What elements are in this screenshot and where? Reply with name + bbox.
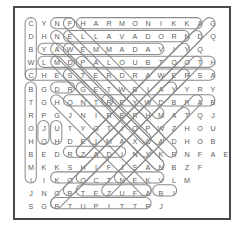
grid-letter[interactable]: T: [102, 83, 116, 96]
grid-letter[interactable]: E: [63, 30, 77, 43]
grid-letter[interactable]: R: [128, 69, 142, 82]
grid-letter[interactable]: E: [37, 148, 51, 161]
grid-letter[interactable]: I: [89, 135, 103, 148]
grid-letter[interactable]: L: [102, 56, 116, 69]
grid-letter[interactable]: Z: [102, 187, 116, 200]
grid-letter[interactable]: N: [141, 17, 155, 30]
grid-letter[interactable]: A: [89, 56, 103, 69]
grid-letter[interactable]: T: [76, 187, 90, 200]
grid-letter[interactable]: A: [193, 96, 207, 109]
grid-letter[interactable]: C: [24, 69, 38, 82]
grid-letter[interactable]: W: [24, 56, 38, 69]
grid-letter[interactable]: E: [167, 69, 181, 82]
grid-letter[interactable]: J: [154, 200, 168, 213]
grid-letter[interactable]: T: [76, 69, 90, 82]
grid-letter[interactable]: Q: [63, 96, 77, 109]
grid-letter[interactable]: M: [50, 56, 64, 69]
grid-letter[interactable]: G: [37, 96, 51, 109]
grid-letter[interactable]: Y: [167, 83, 181, 96]
grid-letter[interactable]: A: [154, 135, 168, 148]
grid-letter[interactable]: B: [167, 161, 181, 174]
grid-letter[interactable]: R: [102, 69, 116, 82]
grid-letter[interactable]: S: [63, 161, 77, 174]
grid-letter[interactable]: S: [193, 69, 207, 82]
grid-letter[interactable]: V: [115, 30, 129, 43]
grid-letter[interactable]: M: [89, 43, 103, 56]
grid-letter[interactable]: O: [128, 122, 142, 135]
grid-letter[interactable]: G: [89, 122, 103, 135]
grid-letter[interactable]: Y: [128, 96, 142, 109]
grid-letter[interactable]: I: [167, 43, 181, 56]
grid-letter[interactable]: O: [193, 122, 207, 135]
grid-letter[interactable]: A: [50, 43, 64, 56]
grid-letter[interactable]: N: [50, 30, 64, 43]
grid-letter[interactable]: B: [24, 83, 38, 96]
grid-letter[interactable]: H: [76, 161, 90, 174]
grid-letter[interactable]: T: [24, 96, 38, 109]
grid-letter[interactable]: S: [128, 161, 142, 174]
grid-letter[interactable]: I: [141, 83, 155, 96]
grid-letter[interactable]: J: [37, 122, 51, 135]
grid-letter[interactable]: P: [141, 122, 155, 135]
grid-letter[interactable]: A: [193, 17, 207, 30]
grid-letter[interactable]: O: [167, 56, 181, 69]
grid-letter[interactable]: H: [141, 109, 155, 122]
grid-letter[interactable]: A: [89, 17, 103, 30]
grid-letter[interactable]: M: [102, 43, 116, 56]
grid-letter[interactable]: C: [24, 17, 38, 30]
grid-letter[interactable]: W: [154, 122, 168, 135]
grid-letter[interactable]: E: [115, 96, 129, 109]
grid-letter[interactable]: U: [206, 122, 220, 135]
grid-letter[interactable]: A: [206, 69, 220, 82]
grid-letter[interactable]: J: [206, 109, 220, 122]
grid-letter[interactable]: Z: [180, 161, 194, 174]
grid-letter[interactable]: P: [76, 56, 90, 69]
grid-letter[interactable]: T: [102, 122, 116, 135]
grid-letter[interactable]: K: [50, 174, 64, 187]
grid-letter[interactable]: F: [193, 161, 207, 174]
grid-letter[interactable]: A: [141, 161, 155, 174]
grid-letter[interactable]: G: [37, 83, 51, 96]
grid-letter[interactable]: W: [63, 43, 77, 56]
grid-letter[interactable]: B: [154, 187, 168, 200]
grid-letter[interactable]: R: [102, 17, 116, 30]
grid-letter[interactable]: H: [180, 122, 194, 135]
grid-letter[interactable]: N: [180, 30, 194, 43]
grid-letter[interactable]: R: [193, 83, 207, 96]
grid-letter[interactable]: A: [141, 187, 155, 200]
grid-letter[interactable]: O: [76, 174, 90, 187]
grid-letter[interactable]: K: [37, 161, 51, 174]
grid-letter[interactable]: B: [115, 109, 129, 122]
grid-letter[interactable]: O: [180, 56, 194, 69]
grid-letter[interactable]: H: [37, 69, 51, 82]
grid-letter[interactable]: N: [115, 174, 129, 187]
grid-letter[interactable]: G: [206, 17, 220, 30]
grid-letter[interactable]: A: [115, 43, 129, 56]
grid-letter[interactable]: T: [154, 56, 168, 69]
grid-letter[interactable]: A: [154, 83, 168, 96]
grid-letter[interactable]: O: [193, 135, 207, 148]
grid-letter[interactable]: N: [50, 17, 64, 30]
grid-letter[interactable]: Y: [37, 17, 51, 30]
grid-letter[interactable]: H: [50, 135, 64, 148]
grid-letter[interactable]: E: [76, 43, 90, 56]
grid-letter[interactable]: I: [89, 161, 103, 174]
grid-letter[interactable]: B: [206, 96, 220, 109]
grid-letter[interactable]: E: [50, 69, 64, 82]
grid-letter[interactable]: A: [89, 148, 103, 161]
grid-letter[interactable]: D: [102, 148, 116, 161]
grid-letter[interactable]: M: [180, 174, 194, 187]
grid-letter[interactable]: Z: [167, 122, 181, 135]
grid-letter[interactable]: F: [63, 17, 77, 30]
grid-letter[interactable]: F: [193, 148, 207, 161]
grid-letter[interactable]: Y: [206, 83, 220, 96]
grid-letter[interactable]: O: [128, 17, 142, 30]
grid-letter[interactable]: T: [89, 96, 103, 109]
grid-letter[interactable]: U: [76, 200, 90, 213]
grid-letter[interactable]: D: [50, 148, 64, 161]
grid-letter[interactable]: R: [167, 148, 181, 161]
grid-letter[interactable]: Z: [76, 148, 90, 161]
grid-letter[interactable]: M: [24, 161, 38, 174]
grid-letter[interactable]: A: [115, 135, 129, 148]
grid-letter[interactable]: W: [154, 69, 168, 82]
